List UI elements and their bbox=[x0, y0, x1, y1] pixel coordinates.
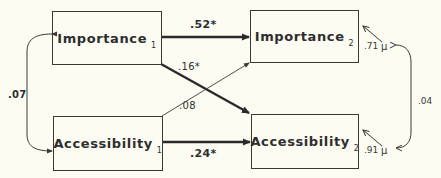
residual-arrow-imp2 bbox=[363, 26, 382, 42]
node-label: Importance1 bbox=[57, 31, 157, 46]
node-label: Accessibility1 bbox=[53, 136, 162, 151]
coef-acc1-imp2: .08 bbox=[179, 100, 196, 111]
covariance-residuals bbox=[396, 45, 411, 148]
residual-symbol-imp2: μ bbox=[381, 41, 387, 52]
node-importance-2: Importance2 bbox=[250, 10, 359, 63]
residual-value-acc2: .91 bbox=[364, 145, 378, 155]
coef-imp1-acc1-cov: .07 bbox=[8, 89, 27, 100]
node-importance-1: Importance1 bbox=[52, 11, 162, 65]
coef-residual-cov: .04 bbox=[418, 96, 432, 106]
coef-acc1-acc2: .24* bbox=[190, 147, 216, 160]
coef-imp1-acc2: .16* bbox=[178, 61, 200, 72]
residual-value-imp2: .71 bbox=[364, 41, 378, 51]
covariance-imp1-acc1 bbox=[27, 34, 52, 151]
residual-symbol-acc2: μ bbox=[381, 145, 387, 156]
coef-imp1-imp2: .52* bbox=[190, 18, 216, 31]
node-accessibility-2: Accessibility2 bbox=[251, 114, 359, 169]
node-label: Importance2 bbox=[255, 29, 355, 44]
node-label: Accessibility2 bbox=[250, 134, 359, 149]
node-accessibility-1: Accessibility1 bbox=[53, 116, 163, 171]
residual-arrow-acc2 bbox=[363, 130, 382, 146]
